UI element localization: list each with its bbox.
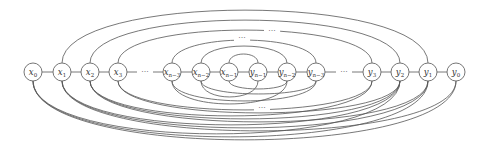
node-yn3: yn−3 xyxy=(307,63,325,81)
node-x2: x2 xyxy=(81,63,99,81)
node-y3: y3 xyxy=(363,63,381,81)
bottom-arc-x2-y2 xyxy=(90,81,400,119)
node-x1: x1 xyxy=(53,63,71,81)
node-yn1: yn−1 xyxy=(249,63,267,81)
bottom-arc-xn3-yn3 xyxy=(172,81,316,101)
bottom-arc-xn2-yn3 xyxy=(201,81,316,94)
bottom-arc-x2-y3 xyxy=(90,81,372,116)
node-y2: y2 xyxy=(391,63,409,81)
node-yn2: yn−2 xyxy=(278,63,296,81)
top-arc-xn3-yn3 xyxy=(172,40,316,63)
node-y1: y1 xyxy=(419,63,437,81)
node-xn2: xn−2 xyxy=(192,63,210,81)
node-xn1: xn−1 xyxy=(220,63,238,81)
node-xn3: xn−3 xyxy=(163,63,181,81)
graph-diagram: ··············· x0x1x2x3xn−3xn−2xn−1yn−1… xyxy=(0,0,484,152)
ellipsis-chain-right: ··· xyxy=(340,67,348,76)
top-arc-xn1-yn1 xyxy=(229,54,258,63)
ellipsis-chain-left: ··· xyxy=(141,67,149,76)
node-x0: x0 xyxy=(24,63,42,81)
ellipsis-top-inner: ··· xyxy=(238,33,246,42)
bottom-arcs xyxy=(33,81,456,140)
ellipsis-bottom: ··· xyxy=(258,103,266,112)
node-y0: y0 xyxy=(447,63,465,81)
top-arc-xn2-yn2 xyxy=(201,46,287,63)
ellipsis-top-outer: ··· xyxy=(268,26,276,35)
node-x3: x3 xyxy=(109,63,127,81)
